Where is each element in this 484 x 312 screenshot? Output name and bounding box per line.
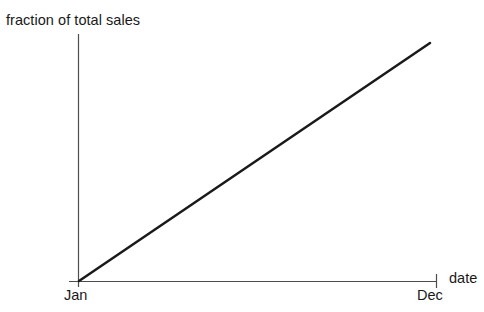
chart-canvas — [0, 0, 484, 312]
x-tick-label-jan: Jan — [64, 288, 87, 303]
x-axis-label: date — [449, 271, 477, 286]
y-axis-label: fraction of total sales — [6, 13, 140, 28]
x-tick-label-dec: Dec — [417, 288, 443, 303]
chart-figure: fraction of total sales Jan Dec date — [0, 0, 484, 312]
data-line-series-1 — [79, 43, 430, 281]
